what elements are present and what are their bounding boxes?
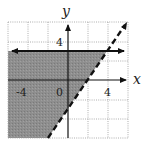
tick-label-x-neg4: -4	[16, 86, 27, 99]
inequality-graph: y x 4 -4 0 4	[0, 0, 145, 150]
y-axis-label: y	[61, 3, 71, 19]
x-axis-label: x	[133, 71, 141, 87]
tick-label-x-0: 0	[56, 86, 63, 99]
tick-label-y-4: 4	[56, 36, 63, 49]
tick-label-x-4: 4	[104, 86, 111, 99]
